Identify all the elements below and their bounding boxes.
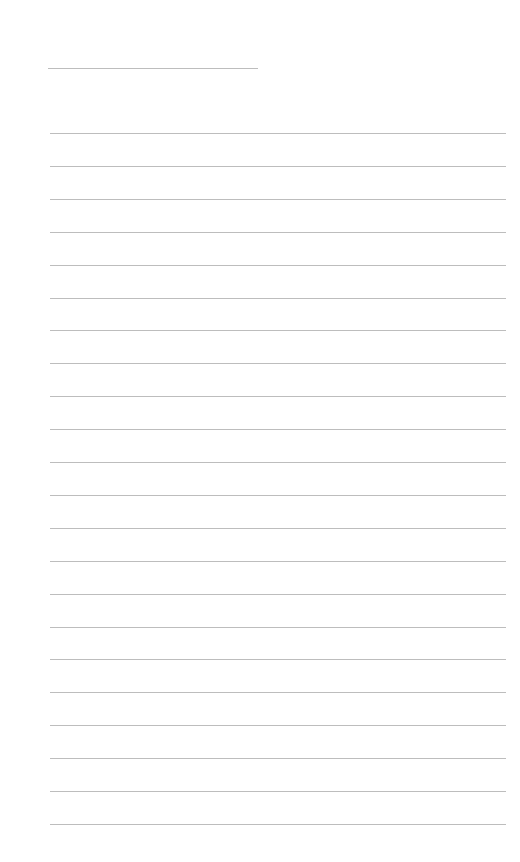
ruled-line: [50, 594, 506, 595]
ruled-line: [50, 429, 506, 430]
ruled-line: [50, 824, 506, 825]
title-line: [48, 68, 258, 69]
ruled-line: [50, 758, 506, 759]
ruled-line: [50, 265, 506, 266]
ruled-line: [50, 561, 506, 562]
ruled-line: [50, 659, 506, 660]
ruled-line: [50, 791, 506, 792]
ruled-line: [50, 363, 506, 364]
ruled-line: [50, 528, 506, 529]
ruled-line: [50, 725, 506, 726]
ruled-line: [50, 199, 506, 200]
ruled-line: [50, 232, 506, 233]
ruled-line: [50, 298, 506, 299]
ruled-line: [50, 462, 506, 463]
ruled-line: [50, 330, 506, 331]
ruled-line: [50, 627, 506, 628]
ruled-line: [50, 495, 506, 496]
ruled-line: [50, 692, 506, 693]
ruled-line: [50, 396, 506, 397]
ruled-line: [50, 166, 506, 167]
ruled-line: [50, 133, 506, 134]
